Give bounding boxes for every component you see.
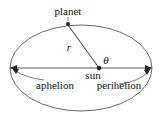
orbit-diagram: planet r θ sun aphelion perihelion	[0, 0, 164, 120]
perihelion-label: perihelion	[97, 79, 142, 91]
planet-dot-icon	[66, 22, 70, 26]
planet-label: planet	[55, 5, 82, 17]
radius-vector-line	[68, 25, 99, 68]
aphelion-label: aphelion	[36, 79, 74, 91]
orbit-diagram-canvas: planet r θ sun aphelion perihelion	[0, 0, 164, 120]
angle-label: θ	[103, 54, 109, 66]
aphelion-pointer-arrowhead-icon	[12, 68, 19, 74]
radius-label: r	[67, 41, 72, 53]
